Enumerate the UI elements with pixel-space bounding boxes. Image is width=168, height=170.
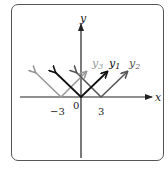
curve-label-y2: y2 [128,57,140,71]
x-axis-label: x [155,91,162,104]
curve-label-y1: y1 [108,57,120,71]
origin-label: 0 [73,100,79,111]
absolute-value-graph: y x 0 −3 3 y3 y1 y2 [0,0,168,170]
tick-label-neg3: −3 [50,106,65,117]
tick-label-3: 3 [98,106,104,117]
y-axis-label: y [79,12,87,25]
curve-label-y3: y3 [91,57,103,71]
